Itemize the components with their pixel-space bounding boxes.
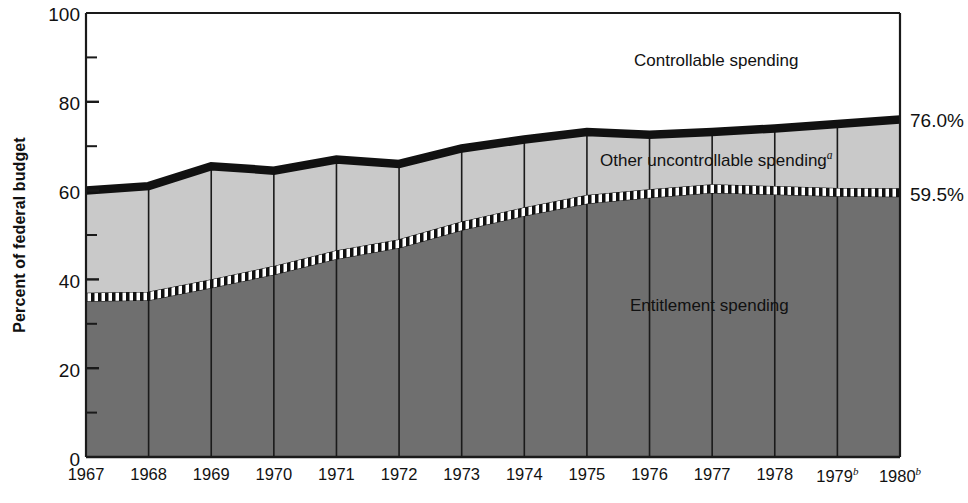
x-tick-year-text: 1975: [569, 465, 606, 483]
annotation-59-5-percent: 59.5%: [910, 185, 964, 204]
series-label-uncontrollable: Other uncontrollable spendinga: [600, 150, 833, 169]
x-tick-year-text: 1969: [193, 465, 230, 483]
x-tick-year-text: 1978: [756, 465, 793, 483]
x-tick-year-text: 1968: [130, 465, 167, 483]
x-tick-year-text: 1977: [694, 465, 731, 483]
x-tick-year-text: 1973: [443, 465, 480, 483]
x-tick-year-text: 1980: [879, 467, 916, 485]
x-tick-label-1979: 1979b: [806, 466, 868, 484]
x-tick-year-text: 1972: [381, 465, 418, 483]
plot-area: [0, 0, 968, 503]
x-tick-label-1978: 1978: [744, 466, 806, 483]
annotation-76-percent: 76.0%: [910, 111, 964, 130]
x-tick-label-1975: 1975: [556, 466, 618, 483]
series-label-controllable: Controllable spending: [634, 52, 798, 69]
x-tick-label-1977: 1977: [681, 466, 743, 483]
x-tick-label-1967: 1967: [55, 466, 117, 483]
stacked-bands: [86, 13, 900, 457]
x-tick-year-text: 1974: [506, 465, 543, 483]
x-tick-label-1968: 1968: [118, 466, 180, 483]
series-label-entitlement-text: Entitlement spending: [630, 296, 789, 315]
series-label-controllable-text: Controllable spending: [634, 51, 798, 70]
x-tick-year-text: 1970: [255, 465, 292, 483]
x-tick-year-text: 1971: [318, 465, 355, 483]
chart-figure: Percent of federal budget 100 80 60 40 2…: [0, 0, 968, 503]
x-tick-label-1974: 1974: [493, 466, 555, 483]
series-label-entitlement: Entitlement spending: [630, 297, 789, 314]
x-tick-label-1969: 1969: [180, 466, 242, 483]
footnote-marker-b: b: [853, 465, 859, 477]
x-tick-label-1973: 1973: [431, 466, 493, 483]
series-label-uncontrollable-text: Other uncontrollable spending: [600, 151, 827, 170]
x-tick-label-1971: 1971: [305, 466, 367, 483]
x-tick-label-1972: 1972: [368, 466, 430, 483]
x-tick-year-text: 1967: [68, 465, 105, 483]
x-tick-year-text: 1979: [816, 467, 853, 485]
footnote-marker-a: a: [827, 149, 833, 161]
footnote-marker-b: b: [916, 465, 922, 477]
x-tick-label-1980: 1980b: [869, 466, 931, 484]
x-tick-label-1976: 1976: [619, 466, 681, 483]
x-tick-year-text: 1976: [631, 465, 668, 483]
x-tick-label-1970: 1970: [243, 466, 305, 483]
